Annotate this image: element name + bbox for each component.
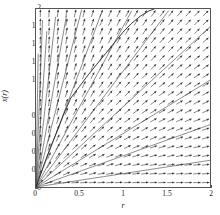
field-arrow-head: [128, 154, 131, 156]
field-arrow-head: [39, 28, 41, 30]
field-arrow-head: [129, 181, 131, 183]
field-arrow-head: [74, 19, 76, 22]
field-arrow-head: [66, 99, 68, 102]
field-arrow-head: [164, 181, 166, 183]
field-arrow-head: [207, 181, 209, 183]
field-arrow-head: [206, 65, 209, 67]
field-arrow-head: [103, 181, 105, 183]
field-arrow-head: [75, 72, 77, 75]
field-arrow-head: [155, 181, 157, 183]
field-arrow-head: [154, 145, 157, 147]
field-arrow-head: [39, 125, 41, 127]
vector-field-svg: [36, 9, 210, 187]
field-arrow-head: [74, 10, 76, 13]
field-arrow-head: [66, 45, 68, 48]
field-arrow-head: [39, 81, 41, 83]
field-arrow-head: [136, 46, 138, 49]
field-arrow-head: [66, 37, 68, 39]
x-axis-label: r: [121, 201, 124, 210]
x-tick-label: 1.5: [162, 190, 171, 198]
field-arrow-head: [198, 154, 200, 156]
field-arrow-head: [189, 154, 191, 156]
field-arrow-head: [48, 126, 50, 129]
field-arrow-head: [153, 19, 155, 22]
field-arrow-head: [163, 163, 165, 165]
field-arrow-head: [92, 10, 94, 13]
field-arrow-head: [101, 91, 103, 94]
field-arrow-head: [172, 163, 174, 165]
solution-curve: [36, 160, 210, 187]
solution-curve: [36, 11, 132, 187]
field-arrow-head: [48, 10, 50, 12]
field-arrow-head: [92, 19, 94, 22]
x-tick-label: 0.5: [74, 190, 83, 198]
field-arrow-head: [198, 181, 200, 183]
x-tick-label: 2: [209, 190, 213, 198]
field-arrow-head: [145, 109, 148, 111]
field-arrow-head: [39, 72, 41, 74]
field-arrow-head: [50, 181, 53, 183]
field-arrow-head: [172, 154, 175, 156]
field-arrow-head: [94, 181, 96, 183]
field-arrow-head: [48, 45, 50, 47]
field-arrow-head: [39, 19, 41, 21]
field-arrow-head: [190, 172, 192, 174]
field-arrow-head: [189, 137, 192, 139]
field-arrow-head: [102, 163, 105, 165]
field-arrow-head: [137, 181, 139, 183]
field-arrow-head: [93, 145, 96, 147]
y-axis-label: x(r): [0, 90, 9, 102]
field-arrow-head: [66, 10, 68, 12]
field-arrow-head: [92, 28, 94, 31]
field-arrow-head: [146, 181, 148, 183]
slope-field-figure: x(r) 00.20.40.60.811.21.41.61.82 00.511.…: [0, 0, 220, 215]
field-arrow-head: [154, 100, 157, 102]
field-arrow-head: [181, 172, 183, 174]
field-arrow-head: [75, 63, 77, 66]
field-arrow-head: [48, 19, 50, 21]
field-arrow-head: [198, 128, 201, 130]
solution-curve: [36, 125, 210, 187]
field-arrow-head: [84, 117, 86, 120]
field-arrow-head: [198, 172, 200, 174]
field-arrow-head: [145, 28, 147, 31]
x-tick-label: 0: [33, 190, 37, 198]
field-arrow-head: [94, 172, 97, 174]
field-arrow-head: [83, 37, 85, 40]
field-arrow-head: [39, 10, 41, 12]
field-arrow-head: [172, 181, 174, 183]
field-arrow-head: [119, 127, 122, 129]
field-arrow-head: [127, 55, 129, 58]
plot-area: [35, 8, 211, 188]
x-tick-label: 1: [121, 190, 125, 198]
field-arrow-head: [66, 28, 68, 30]
field-arrow-head: [146, 163, 148, 165]
field-arrow-head: [66, 54, 68, 57]
field-arrow-head: [119, 64, 121, 67]
field-arrow-head: [120, 181, 122, 183]
field-arrow-head: [111, 181, 113, 183]
field-arrow-head: [110, 82, 112, 85]
field-arrow-head: [163, 145, 166, 147]
field-arrow-head: [155, 163, 157, 165]
field-arrow-head: [207, 128, 210, 130]
field-arrow-head: [57, 117, 59, 120]
field-arrow-head: [85, 181, 87, 183]
field-arrow-head: [207, 172, 209, 174]
field-arrow-head: [57, 90, 59, 93]
field-arrow-head: [48, 143, 50, 146]
field-arrow-head: [111, 172, 113, 174]
field-arrow-head: [197, 74, 200, 76]
field-arrow-head: [57, 81, 59, 84]
field-arrow-head: [57, 72, 59, 74]
field-arrow-head: [181, 137, 184, 139]
field-arrow-head: [76, 172, 79, 174]
field-arrow-head: [58, 153, 60, 156]
solution-curve: [36, 9, 82, 187]
solution-curve: [36, 80, 210, 187]
field-arrow-head: [83, 46, 85, 49]
field-arrow-head: [57, 54, 59, 56]
field-arrow-head: [48, 28, 50, 30]
field-arrow-head: [180, 82, 183, 84]
field-arrow-head: [171, 91, 174, 93]
